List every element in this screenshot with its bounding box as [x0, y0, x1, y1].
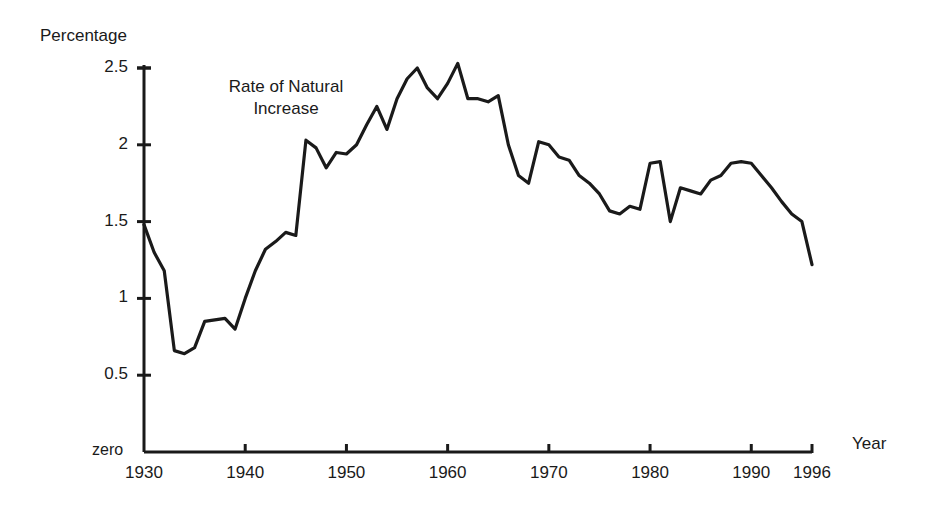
y-tick-label: 2	[68, 134, 128, 154]
axes	[144, 65, 812, 452]
y-tick-label: 1.5	[68, 211, 128, 231]
data-series-line	[144, 63, 812, 353]
x-tick-label: 1950	[311, 463, 381, 483]
y-tick-label: 2.5	[68, 57, 128, 77]
y-tick-label: 0.5	[68, 364, 128, 384]
line-chart-plot	[0, 0, 937, 514]
axis-ticks	[137, 68, 812, 453]
x-tick-label: 1990	[716, 463, 786, 483]
chart-container: Percentage Year zero Rate of Natural Inc…	[0, 0, 937, 514]
x-tick-label: 1960	[413, 463, 483, 483]
x-tick-label: 1930	[109, 463, 179, 483]
x-tick-label: 1996	[777, 463, 847, 483]
x-tick-label: 1940	[210, 463, 280, 483]
x-tick-label: 1970	[514, 463, 584, 483]
y-tick-label: 1	[68, 287, 128, 307]
x-tick-label: 1980	[615, 463, 685, 483]
